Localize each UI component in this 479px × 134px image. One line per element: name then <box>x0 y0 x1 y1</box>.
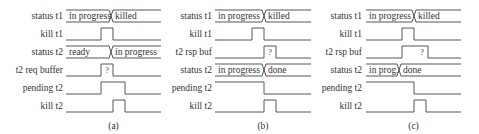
signal-row: kill t2 <box>190 100 311 112</box>
unknown-value-mark: ? <box>105 66 109 75</box>
signal-label: kill t1 <box>190 29 213 39</box>
panel-caption: (c) <box>408 121 419 132</box>
bus-value: killed <box>268 11 290 21</box>
signal-label: kill t2 <box>340 101 363 111</box>
bus-value: in prog. <box>369 65 399 75</box>
digital-waveform <box>366 100 461 112</box>
unknown-value-mark: ? <box>268 48 272 57</box>
bus-value: ready <box>69 47 90 57</box>
panel-c: status t1in progresskilledkill t1t2 rsp … <box>322 10 461 132</box>
bus-value: done <box>403 65 421 75</box>
signal-row: pending t2 <box>172 82 311 94</box>
bus-value: in progress <box>218 11 260 21</box>
bus-value: done <box>268 65 286 75</box>
signal-row: kill t1 <box>190 28 311 40</box>
signal-row: status t2in progressdone <box>181 64 311 76</box>
signal-row: status t1in progresskilled <box>181 10 311 22</box>
signal-label: kill t2 <box>190 101 213 111</box>
signal-row: status t2readyin progress <box>32 46 161 58</box>
unknown-value-mark: ? <box>420 48 424 57</box>
bus-value: in progress <box>115 47 157 57</box>
signal-label: t2 req buffer <box>16 65 64 75</box>
digital-waveform <box>215 100 311 112</box>
signal-label: kill t1 <box>41 29 64 39</box>
bus-value: in progress <box>369 11 411 21</box>
panel-a: status t1in progresskilledkill t1status … <box>16 10 161 132</box>
signal-label: status t2 <box>181 65 213 75</box>
signal-row: pending t2 <box>23 82 161 94</box>
signal-label: kill t2 <box>41 101 64 111</box>
bus-value: killed <box>418 11 440 21</box>
signal-label: status t1 <box>32 11 64 21</box>
bus-value: killed <box>115 11 137 21</box>
signal-row: status t1in progresskilled <box>331 10 461 22</box>
signal-row: pending t2 <box>322 82 461 94</box>
signal-row: kill t2 <box>41 100 161 112</box>
signal-label: status t2 <box>32 47 64 57</box>
digital-waveform <box>66 64 161 76</box>
panel-caption: (a) <box>108 121 119 132</box>
digital-waveform <box>66 28 161 40</box>
signal-label: status t1 <box>331 11 363 21</box>
timing-diagram: status t1in progresskilledkill t1status … <box>0 0 479 134</box>
signal-row: t2 req buffer? <box>16 64 161 76</box>
signal-row: status t2in prog.done <box>331 64 461 76</box>
panel-b: status t1in progresskilledkill t1t2 rsp … <box>172 10 311 132</box>
signal-row: kill t1 <box>41 28 161 40</box>
signal-label: t2 rsp buf <box>326 47 363 57</box>
digital-waveform <box>66 82 161 94</box>
bus-value: in progress <box>218 65 260 75</box>
bus-value: in progress <box>69 11 111 21</box>
digital-waveform <box>215 82 311 94</box>
digital-waveform <box>366 28 461 40</box>
signal-label: status t1 <box>181 11 213 21</box>
digital-waveform <box>366 82 461 94</box>
signal-label: pending t2 <box>172 83 213 93</box>
signal-row: t2 rsp buf? <box>176 46 311 58</box>
signal-row: t2 rsp buf? <box>326 46 461 58</box>
signal-row: kill t2 <box>340 100 461 112</box>
signal-row: status t1in progresskilled <box>32 10 161 22</box>
digital-waveform <box>215 28 311 40</box>
signal-label: pending t2 <box>23 83 64 93</box>
panel-caption: (b) <box>257 121 268 132</box>
digital-waveform <box>66 100 161 112</box>
signal-label: status t2 <box>331 65 363 75</box>
digital-waveform <box>366 46 461 58</box>
signal-label: pending t2 <box>322 83 363 93</box>
signal-row: kill t1 <box>340 28 461 40</box>
signal-label: t2 rsp buf <box>176 47 213 57</box>
digital-waveform <box>215 46 311 58</box>
signal-label: kill t1 <box>340 29 363 39</box>
